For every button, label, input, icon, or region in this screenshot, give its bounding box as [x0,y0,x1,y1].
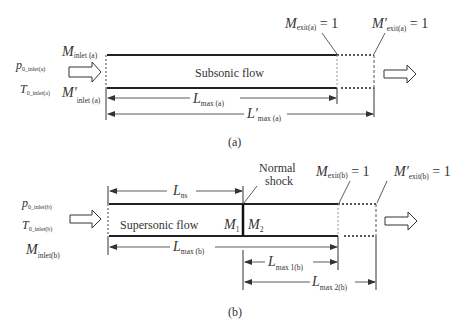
outlet-flow-arrow-icon [385,212,417,230]
label-m2: M2 [247,217,264,234]
label-p0-inlet-b: p0_inlet(b) [21,196,52,211]
label-normal-shock-2: shock [265,174,293,188]
label-p0-inlet-a: p0_inlet(a) [15,58,45,73]
label-l-max-a: Lmax (a) [192,91,224,108]
label-m-exit-a: Mexit(a) = 1 [284,16,338,32]
label-flow-b: Supersonic flow [120,218,199,232]
label-l-max1-b: Lmax 1(b) [267,254,304,272]
leader-m-exit-a [322,33,337,54]
leader-m-exit-b-prime [377,181,387,203]
label-l-max2-b: Lmax 2(b) [311,274,348,292]
label-normal-shock-1: Normal [259,161,296,175]
label-m-exit-a-prime: M′exit(a) = 1 [371,16,428,33]
diagram-a: p0_inlet(a) T0_inlet(a) Minlet (a) M′inl… [15,16,428,149]
leader-normal-shock [244,186,257,203]
label-flow-a: Subsonic flow [195,66,264,80]
label-t0-inlet-b: T0_inlet(b) [22,218,52,233]
outlet-flow-arrow-icon [384,65,416,83]
label-m-exit-b: Mexit(b) = 1 [315,164,370,180]
caption-a: (a) [228,135,241,149]
label-l-ns: Lns [172,183,188,200]
caption-b: (b) [228,305,242,319]
label-m-exit-b-prime: M′exit(b) = 1 [393,164,451,181]
label-m-inlet-b: Minlet(b) [25,242,60,260]
leader-m-exit-a-prime [374,33,385,54]
diagram-b: p0_inlet(b) T0_inlet(b) Minlet(b) Supers… [21,161,451,319]
label-t0-inlet-a: T0_inlet(a) [20,82,50,97]
label-m1: M1 [223,217,240,234]
leader-m-exit-b [339,181,350,203]
label-l-max-b: Lmax (b) [172,239,205,256]
inlet-flow-arrow-icon [70,210,101,228]
label-m-inlet-a-prime: M′inlet (a) [61,85,101,105]
inlet-flow-arrow-icon [69,62,101,82]
label-m-inlet-a: Minlet (a) [61,44,98,60]
fanno-flow-diagram: p0_inlet(a) T0_inlet(a) Minlet (a) M′inl… [0,0,471,332]
label-l-max-a-prime: L′max (a) [246,106,281,123]
